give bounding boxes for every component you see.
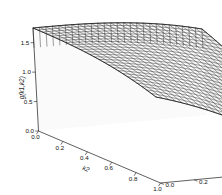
plot-canvas: 0.00.51.01.50.00.20.40.60.81.00.00.20.40… — [0, 0, 222, 195]
z-tick-label: 1.0 — [22, 68, 31, 75]
surface-plot-figure: 0.00.51.01.50.00.20.40.60.81.00.00.20.40… — [0, 0, 222, 195]
k2-tick-label: 0.0 — [31, 133, 40, 140]
k1-tickmark — [161, 183, 164, 184]
k2-axis-label: k2 — [82, 164, 91, 173]
k1-tick-label: 0.2 — [199, 178, 208, 185]
k1-tickmark — [194, 180, 197, 181]
z-tick-label: 1.5 — [21, 39, 30, 46]
z-axis-label: g(k1,k2) — [18, 76, 26, 99]
k2-tick-label: 0.4 — [80, 154, 89, 161]
k2-tick-label: 0.6 — [104, 164, 113, 171]
k2-tick-label: 1.0 — [153, 185, 162, 192]
k1-tick-label: 0.0 — [166, 181, 175, 188]
k2-axis-line — [39, 131, 161, 183]
k2-tick-label: 0.8 — [129, 175, 138, 182]
k2-tick-label: 0.2 — [56, 144, 65, 151]
